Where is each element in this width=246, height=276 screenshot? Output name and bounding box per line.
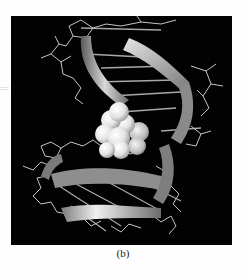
molecule-image-panel [11,16,232,245]
margin-bleed-mark [0,86,9,92]
figure-caption: (b) [0,247,246,259]
figure: (b) [0,0,246,276]
dna-ligand-model-graphic [11,16,232,245]
